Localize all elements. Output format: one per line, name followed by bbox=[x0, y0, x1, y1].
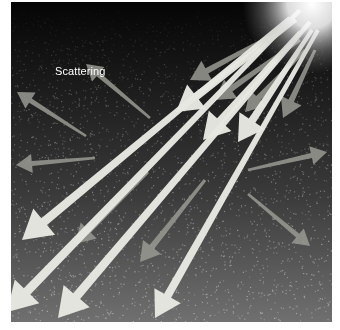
scattering-label: Scattering bbox=[55, 65, 106, 77]
scattering-diagram: Scattering bbox=[11, 2, 332, 322]
diagram-canvas bbox=[11, 2, 332, 322]
